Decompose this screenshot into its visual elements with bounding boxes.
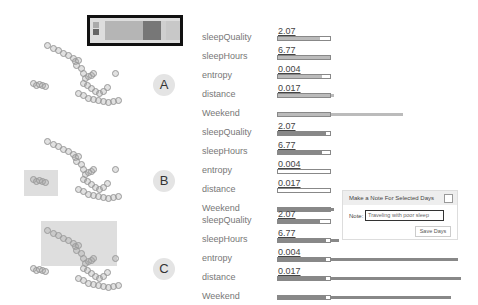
- panel-label-c: C: [153, 258, 175, 280]
- attribute-bar: [277, 150, 331, 155]
- note-panel: Make a Note For Selected Days Note: Trav…: [342, 190, 458, 240]
- note-label: Note:: [349, 213, 363, 219]
- attribute-label: sleepQuality: [202, 127, 252, 137]
- data-point: [115, 97, 122, 104]
- note-panel-header: Make a Note For Selected Days: [343, 191, 457, 205]
- attribute-value: 6.77: [278, 45, 296, 55]
- attribute-label: entropy: [202, 165, 232, 175]
- data-point: [115, 193, 122, 200]
- panel-label-a: A: [153, 74, 175, 96]
- attribute-label: entropy: [202, 70, 232, 80]
- data-point: [112, 70, 119, 77]
- attribute-value: 0.017: [278, 266, 301, 276]
- close-icon[interactable]: [444, 194, 453, 203]
- attribute-label: Weekend: [202, 203, 240, 213]
- attribute-label: distance: [202, 89, 236, 99]
- attribute-bar: [277, 131, 331, 136]
- selection-rect[interactable]: [24, 170, 58, 196]
- legend-swatch: [93, 22, 99, 28]
- attribute-bar-extension: [331, 113, 403, 116]
- attribute-label: sleepHours: [202, 234, 248, 244]
- attribute-bar: [277, 219, 331, 224]
- attribute-bar-extension: [331, 239, 339, 242]
- attribute-label: Weekend: [202, 108, 240, 118]
- attribute-bar: [277, 74, 331, 79]
- attribute-label: sleepQuality: [202, 32, 252, 42]
- attribute-label: sleepHours: [202, 51, 248, 61]
- attribute-bar: [277, 112, 331, 117]
- attribute-label: distance: [202, 184, 236, 194]
- data-point: [104, 84, 111, 91]
- attribute-value: 2.07: [278, 209, 296, 219]
- save-days-button[interactable]: Save Days: [415, 226, 451, 237]
- attribute-bar: [277, 295, 331, 300]
- legend-segment: [143, 21, 161, 40]
- attribute-label: sleepQuality: [202, 215, 252, 225]
- attribute-label: entropy: [202, 253, 232, 263]
- attribute-bar-extension: [331, 258, 458, 261]
- attribute-bar: [277, 169, 331, 174]
- note-panel-title: Make a Note For Selected Days: [349, 195, 434, 201]
- note-input[interactable]: Traveling with poor sleep: [365, 210, 444, 221]
- attribute-bar: [277, 36, 331, 41]
- attribute-value: 6.77: [278, 140, 296, 150]
- attribute-bar-extension: [331, 208, 334, 211]
- data-point: [90, 166, 97, 173]
- attribute-bar: [277, 238, 331, 243]
- attribute-value: 0.004: [278, 159, 301, 169]
- attribute-value: 2.07: [278, 26, 296, 36]
- data-point: [104, 269, 111, 276]
- data-point: [112, 166, 119, 173]
- attribute-value: 2.07: [278, 121, 296, 131]
- attribute-bar: [277, 93, 331, 98]
- attribute-value: 0.017: [278, 83, 301, 93]
- attribute-bar: [277, 55, 331, 60]
- data-point: [42, 268, 49, 275]
- legend-segment: [166, 21, 180, 40]
- attribute-bar: [277, 188, 331, 193]
- selection-rect[interactable]: [41, 221, 117, 266]
- data-point: [115, 282, 122, 289]
- attribute-value: 0.004: [278, 247, 301, 257]
- data-point: [90, 70, 97, 77]
- attribute-bar: [277, 276, 331, 281]
- attribute-bar-extension: [331, 296, 451, 299]
- attribute-label: distance: [202, 272, 236, 282]
- attribute-bar-extension: [331, 277, 461, 280]
- attribute-bar-extension: [331, 94, 334, 97]
- attribute-label: Weekend: [202, 291, 240, 301]
- data-point: [42, 83, 49, 90]
- legend-segment: [105, 21, 143, 40]
- color-legend: [87, 15, 183, 46]
- panel-label-b: B: [153, 170, 175, 192]
- data-point: [104, 180, 111, 187]
- legend-swatch: [93, 29, 99, 35]
- attribute-value: 6.77: [278, 228, 296, 238]
- attribute-bar: [277, 257, 331, 262]
- attribute-value: 0.017: [278, 178, 301, 188]
- legend-swatch: [93, 36, 99, 42]
- attribute-value: 0.004: [278, 64, 301, 74]
- attribute-label: sleepHours: [202, 146, 248, 156]
